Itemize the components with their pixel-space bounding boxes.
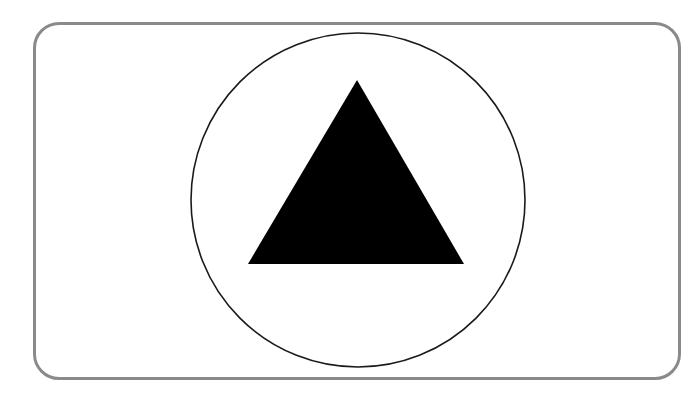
triangle-icon [248,80,464,264]
symbol-graphic [0,0,698,397]
